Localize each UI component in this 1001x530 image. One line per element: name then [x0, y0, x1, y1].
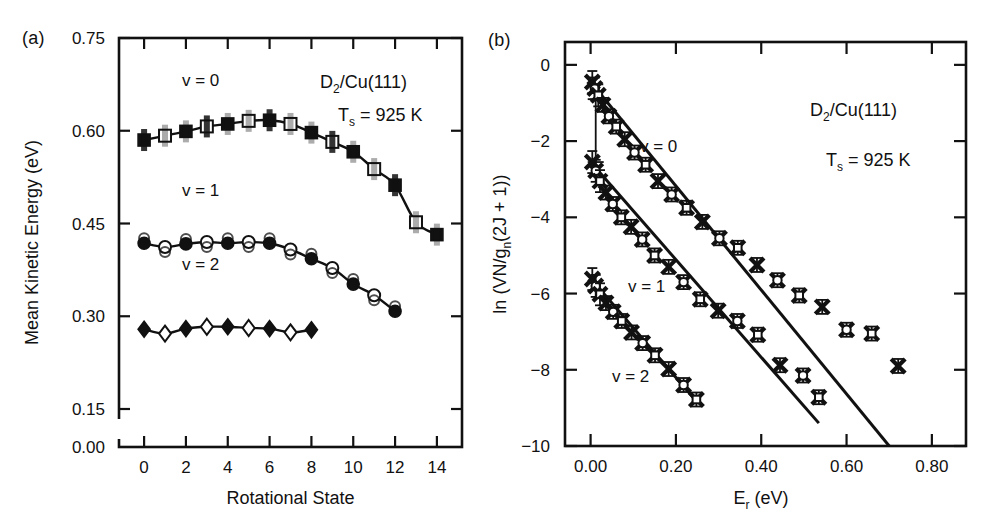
data-point-diamond [180, 321, 192, 337]
data-point-square [815, 393, 823, 401]
x-tick-label: 0 [139, 458, 148, 477]
panel-a-y-axis-break [114, 419, 124, 439]
y-tick-label: 0.15 [72, 400, 105, 419]
data-point-spread [267, 109, 273, 131]
x-tick-label: 14 [427, 458, 446, 477]
x-tick-label: 0.00 [574, 457, 607, 476]
panel-a-plot: 0.750.600.450.300.150.0002468101214Rotat… [0, 0, 500, 530]
x-tick-label: 0.20 [659, 457, 692, 476]
data-point-spread [329, 131, 335, 153]
data-point-square [596, 177, 604, 185]
data-point-square [696, 295, 704, 303]
data-point-spread [183, 120, 189, 142]
data-point-diamond [201, 319, 213, 335]
x-tick-label: 12 [386, 458, 405, 477]
y-tick-label: −10 [521, 437, 550, 456]
data-point-circle [679, 381, 687, 389]
data-point-square [868, 330, 876, 338]
panel-b-system-annotation: D2/Cu(111) [810, 100, 897, 124]
data-point-square [734, 244, 742, 252]
y-tick-label: 0.75 [72, 29, 105, 48]
data-point-square [651, 252, 659, 260]
panel-b-canvas: 0−2−4−6−8−100.000.200.400.600.80Er (eV)l… [490, 42, 966, 512]
panel-b-plot: 0−2−4−6−8−100.000.200.400.600.80Er (eV)l… [480, 0, 1001, 530]
series-label-v2: v = 2 [182, 255, 219, 274]
figure-root: (a) 0.750.600.450.300.150.0002468101214R… [0, 0, 1001, 530]
panel-a-x-axis-title: Rotational State [226, 488, 354, 508]
data-point-circle [638, 339, 646, 347]
x-tick-label: 0.60 [830, 457, 863, 476]
data-point-spread [371, 158, 377, 180]
series-v---0 [585, 71, 905, 446]
data-point-square [795, 292, 803, 300]
x-tick-label: 4 [223, 458, 232, 477]
data-point-spread [288, 113, 294, 135]
data-point-spread [162, 125, 168, 147]
panel-a-label: (a) [22, 28, 45, 49]
data-point-circle [638, 235, 646, 243]
data-point-spread [204, 115, 210, 137]
series-label-v1: v = 1 [182, 181, 219, 200]
series-v---0 [138, 109, 443, 245]
data-point-diamond [222, 319, 234, 335]
data-point-square [754, 331, 762, 339]
data-point-circle [773, 276, 781, 284]
data-point-spread [246, 110, 252, 132]
panel-a-y-axis-title: Mean Kinetic Energy (eV) [22, 140, 42, 345]
x-tick-label: 0.40 [745, 457, 778, 476]
panel-b: (b) 0−2−4−6−8−100.000.200.400.600.80Er (… [480, 0, 1001, 530]
data-point-square [618, 214, 626, 222]
panel-b-series-group [585, 71, 905, 446]
series-label-v2: v = 2 [612, 367, 649, 386]
y-tick-label: 0.45 [72, 215, 105, 234]
panel-a: (a) 0.750.600.450.300.150.0002468101214R… [0, 0, 500, 530]
fit-line [591, 82, 890, 446]
panel-a-canvas: 0.750.600.450.300.150.0002468101214Rotat… [22, 29, 462, 508]
data-point-circle [715, 234, 723, 242]
x-tick-label: 8 [307, 458, 316, 477]
data-point-square [693, 396, 701, 404]
data-point-square [642, 161, 650, 169]
data-point-diamond [285, 324, 297, 340]
series-label-v0: v = 0 [640, 137, 677, 156]
data-point-square [612, 123, 620, 131]
panel-b-temperature-annotation: Ts = 925 K [826, 150, 911, 174]
data-point-spread [413, 211, 419, 233]
data-point-spread [392, 174, 398, 196]
y-tick-label-zero: 0.00 [72, 438, 105, 457]
data-point-diamond [138, 321, 150, 337]
data-point-circle [609, 200, 617, 208]
series-label-v1: v = 1 [628, 277, 665, 296]
y-tick-label: −4 [531, 208, 550, 227]
series-v---2 [138, 319, 317, 342]
data-point-square [683, 204, 691, 212]
data-point-spread [434, 224, 440, 246]
y-tick-label: 0.30 [72, 307, 105, 326]
data-point-diamond [305, 322, 317, 338]
y-tick-label: −8 [531, 361, 550, 380]
panel-b-y-axis-title: ln (VN/gn(2J + 1)) [490, 174, 514, 313]
data-point-circle [630, 148, 638, 156]
data-point-spread [350, 141, 356, 163]
data-point-circle [842, 326, 850, 334]
panel-a-series-group [138, 109, 443, 341]
series-v---1 [138, 233, 401, 317]
data-point-circle [679, 278, 687, 286]
data-point-spread [308, 122, 314, 144]
data-point-circle [667, 190, 675, 198]
y-tick-label: −2 [531, 132, 550, 151]
y-tick-label: 0.60 [72, 122, 105, 141]
panel-b-x-axis-title: Er (eV) [734, 488, 789, 512]
data-point-circle [733, 317, 741, 325]
x-tick-label: 10 [344, 458, 363, 477]
data-point-diamond [243, 320, 255, 336]
y-tick-label: −6 [531, 285, 550, 304]
data-point-square [618, 317, 626, 325]
data-point-diamond [264, 321, 276, 337]
series-label-v0: v = 0 [182, 71, 219, 90]
x-tick-label: 2 [181, 458, 190, 477]
y-tick-label: 0 [541, 56, 550, 75]
data-point-spread [225, 113, 231, 135]
panel-b-label: (b) [488, 30, 511, 51]
data-point-square [651, 351, 659, 359]
